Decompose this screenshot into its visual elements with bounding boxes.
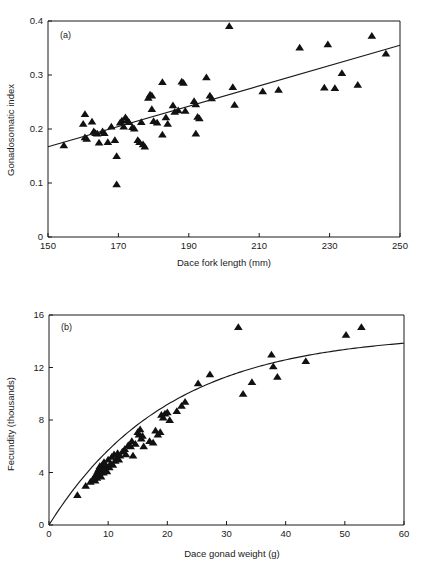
panel-a-fit-line bbox=[48, 45, 400, 147]
y-tick-label: 4 bbox=[39, 467, 44, 478]
x-tick-label: 230 bbox=[322, 240, 338, 251]
data-point-marker bbox=[163, 120, 172, 127]
panel-a-frame bbox=[48, 21, 400, 237]
panel-b-x-axis-title: Dace gonad weight (g) bbox=[184, 548, 280, 559]
x-tick-label: 20 bbox=[162, 528, 173, 539]
data-point-marker bbox=[324, 41, 333, 48]
panel-b: 0102030405060 0481216 (b) Dace gonad wei… bbox=[0, 284, 426, 568]
data-point-marker bbox=[104, 138, 113, 145]
y-tick-label: 0.3 bbox=[30, 69, 43, 80]
data-point-marker bbox=[225, 22, 234, 29]
panel-a-x-axis-title: Dace fork length (mm) bbox=[177, 257, 271, 268]
data-point-marker bbox=[342, 331, 351, 338]
data-point-marker bbox=[230, 101, 239, 108]
panel-a-plot: 150170190210230250 00.10.20.30.4 (a) Dac… bbox=[0, 0, 426, 284]
data-point-marker bbox=[158, 78, 167, 85]
data-point-marker bbox=[181, 398, 190, 405]
data-point-marker bbox=[239, 390, 248, 397]
data-point-marker bbox=[234, 323, 243, 330]
y-tick-label: 0 bbox=[39, 519, 44, 530]
x-tick-label: 60 bbox=[399, 528, 410, 539]
data-point-marker bbox=[162, 113, 171, 120]
y-tick-label: 0.1 bbox=[30, 177, 43, 188]
data-point-marker bbox=[169, 102, 178, 109]
panel-b-frame bbox=[49, 315, 404, 525]
panel-b-label: (b) bbox=[61, 322, 72, 332]
panel-b-y-axis-title: Fecundity (thousands) bbox=[5, 377, 16, 471]
x-tick-label: 30 bbox=[221, 528, 232, 539]
data-point-marker bbox=[248, 378, 257, 385]
panel-a-x-tick-labels: 150170190210230250 bbox=[40, 240, 408, 251]
data-point-marker bbox=[353, 81, 362, 88]
data-point-marker bbox=[273, 373, 282, 380]
data-point-marker bbox=[88, 118, 97, 125]
data-point-marker bbox=[229, 83, 238, 90]
data-point-marker bbox=[295, 44, 304, 51]
panel-a-y-axis-title: Gonadosomatic index bbox=[5, 84, 16, 176]
panel-b-y-tick-labels: 0481216 bbox=[33, 309, 44, 530]
data-point-marker bbox=[111, 136, 120, 143]
x-tick-label: 0 bbox=[46, 528, 51, 539]
data-point-marker bbox=[258, 88, 267, 95]
panel-b-fit-curve bbox=[49, 343, 404, 525]
data-point-marker bbox=[206, 370, 215, 377]
data-point-marker bbox=[274, 86, 283, 93]
data-point-marker bbox=[73, 491, 82, 498]
y-tick-label: 12 bbox=[33, 362, 44, 373]
y-tick-label: 8 bbox=[39, 414, 44, 425]
x-tick-label: 40 bbox=[280, 528, 291, 539]
data-point-marker bbox=[79, 120, 88, 127]
panel-a: 150170190210230250 00.10.20.30.4 (a) Dac… bbox=[0, 0, 426, 284]
panel-b-ticks bbox=[49, 315, 404, 525]
data-point-marker bbox=[136, 426, 145, 433]
y-tick-label: 0.2 bbox=[30, 123, 43, 134]
y-tick-label: 16 bbox=[33, 309, 44, 320]
x-tick-label: 50 bbox=[340, 528, 351, 539]
data-point-marker bbox=[95, 139, 104, 146]
data-point-marker bbox=[194, 380, 203, 387]
data-point-marker bbox=[338, 69, 347, 76]
panel-a-y-tick-labels: 00.10.20.30.4 bbox=[30, 15, 43, 242]
figure-container: 150170190210230250 00.10.20.30.4 (a) Dac… bbox=[0, 0, 426, 568]
data-point-marker bbox=[148, 105, 157, 112]
data-point-marker bbox=[192, 130, 201, 137]
data-point-marker bbox=[331, 84, 340, 91]
data-point-marker bbox=[267, 351, 276, 358]
data-point-marker bbox=[357, 323, 366, 330]
x-tick-label: 210 bbox=[251, 240, 267, 251]
data-point-marker bbox=[158, 131, 167, 138]
panel-a-label: (a) bbox=[60, 30, 71, 40]
x-tick-label: 250 bbox=[392, 240, 408, 251]
data-point-marker bbox=[129, 452, 138, 459]
data-point-marker bbox=[81, 110, 90, 117]
data-point-marker bbox=[368, 32, 377, 39]
data-point-marker bbox=[301, 357, 310, 364]
data-point-marker bbox=[112, 180, 121, 187]
panel-b-datapoints bbox=[73, 323, 366, 498]
x-tick-label: 10 bbox=[103, 528, 114, 539]
data-point-marker bbox=[202, 74, 211, 81]
x-tick-label: 170 bbox=[110, 240, 126, 251]
data-point-marker bbox=[112, 152, 121, 159]
panel-a-datapoints bbox=[60, 22, 391, 187]
y-tick-label: 0 bbox=[38, 231, 43, 242]
panel-b-x-tick-labels: 0102030405060 bbox=[46, 528, 409, 539]
panel-b-plot: 0102030405060 0481216 (b) Dace gonad wei… bbox=[0, 284, 426, 568]
x-tick-label: 190 bbox=[181, 240, 197, 251]
y-tick-label: 0.4 bbox=[30, 15, 43, 26]
panel-a-ticks bbox=[48, 21, 400, 237]
data-point-marker bbox=[320, 84, 329, 91]
